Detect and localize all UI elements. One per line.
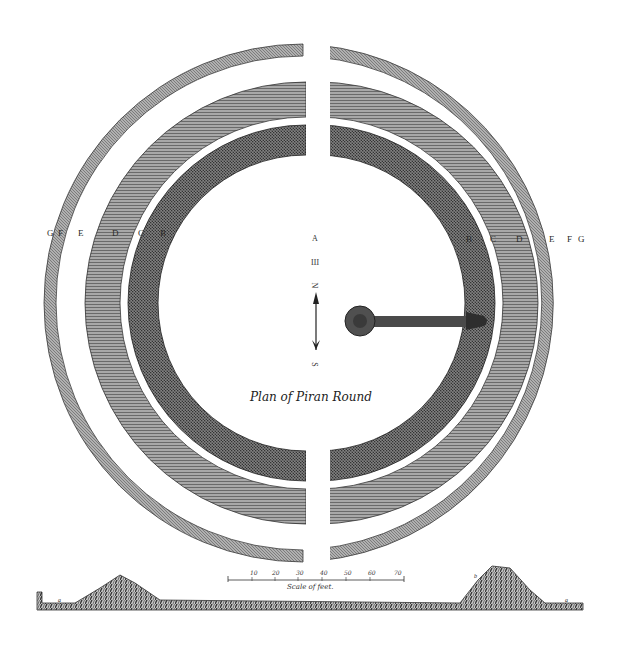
north-label: N (310, 283, 319, 289)
ring-label-right-f: F (567, 234, 573, 244)
ring-label-left-g: G (47, 228, 54, 238)
scale-tick-10: 10 (250, 569, 258, 576)
south-label: S (310, 362, 319, 366)
ring-label-left-f: F (58, 228, 64, 238)
scale-bar (228, 576, 404, 582)
scale-tick-60: 60 (368, 569, 376, 576)
plate-title: Plan of Piran Round (250, 390, 372, 404)
scale-tick-20: 20 (272, 569, 280, 576)
scale-tick-50: 50 (344, 569, 352, 576)
ring-label-left-e: E (78, 228, 84, 238)
section-label-peak: b (474, 573, 478, 579)
scale-tick-30: 30 (296, 569, 304, 576)
ring-label-right-b: B (466, 234, 473, 244)
ring-label-left-b: B (160, 228, 167, 238)
ring-label-left-d: D (112, 228, 119, 238)
ring-label-right-d: D (516, 234, 523, 244)
peran-round-plan-engraving (0, 0, 622, 646)
ring-label-right-e: E (549, 234, 555, 244)
compass-letter-a: A (312, 234, 318, 243)
ring-label-right-c: C (490, 234, 497, 244)
scale-tick-70: 70 (394, 569, 402, 576)
section-label-left: a (58, 597, 62, 603)
ring-label-left-c: C (138, 228, 145, 238)
section-label-right: a (565, 597, 569, 603)
scale-tick-40: 40 (320, 569, 328, 576)
ring-label-right-g: G (578, 234, 585, 244)
compass-mark: Ш (311, 258, 319, 267)
scale-caption: Scale of feet. (287, 583, 333, 591)
